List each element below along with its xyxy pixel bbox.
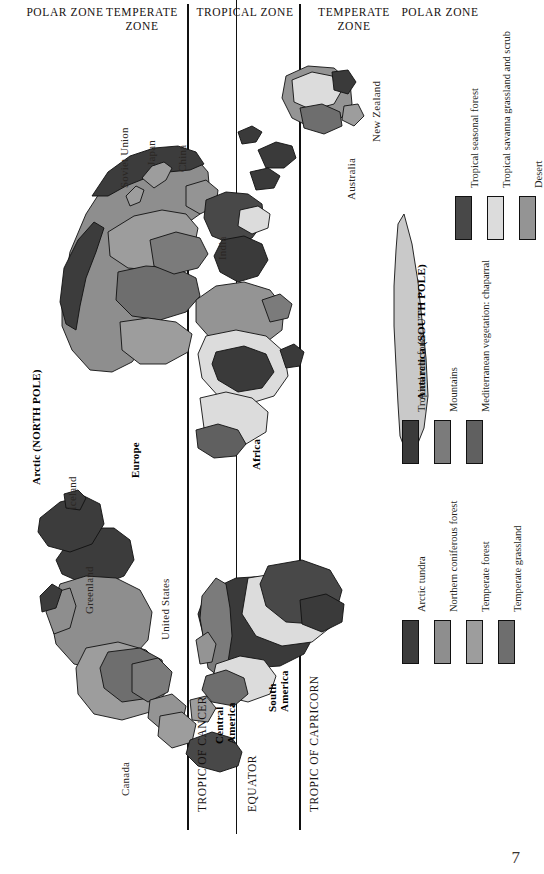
- place-label-iceland: Iceland: [66, 476, 78, 510]
- legend-label: Tropical seasonal forest: [469, 88, 480, 188]
- place-label-central-america: CentralAmerica: [213, 702, 237, 744]
- legend-swatch: [434, 620, 451, 664]
- legend-swatch: [434, 420, 451, 464]
- latitude-label-tropic-of-cancer: TROPIC OF CANCER: [196, 696, 208, 812]
- legend-swatch: [402, 420, 419, 464]
- landmass-north-america: [38, 490, 196, 748]
- place-label-china: China: [176, 145, 188, 172]
- legend-label: Temperate grassland: [512, 526, 523, 612]
- latitude-label-equator: EQUATOR: [246, 755, 258, 812]
- landmass-south-america: [186, 560, 344, 772]
- place-label-africa: Africa: [250, 439, 262, 470]
- legend-swatch: [455, 196, 472, 240]
- legend-label: Temperate forest: [480, 541, 491, 612]
- legend-label: Northern coniferous forest: [448, 501, 459, 612]
- place-label-australia: Australia: [345, 158, 357, 200]
- legend-label: Desert: [533, 161, 544, 188]
- place-label-new-zealand: New Zealand: [370, 81, 382, 142]
- latitude-label-tropic-of-capricorn: TROPIC OF CAPRICORN: [308, 675, 320, 812]
- landmass-africa: [196, 282, 304, 458]
- legend-swatch: [487, 196, 504, 240]
- place-label-greenland: Greenland: [83, 566, 95, 614]
- place-label-japan: Japan: [145, 140, 157, 166]
- legend-label: Arctic tundra: [416, 556, 427, 612]
- landmass-australia: [282, 66, 364, 134]
- pole-label-arctic: Arctic (NORTH POLE): [30, 369, 42, 485]
- legend-swatch: [466, 420, 483, 464]
- place-label-canada: Canada: [119, 762, 131, 796]
- place-label-south-america: SouthAmerica: [266, 670, 290, 712]
- legend-label: Tropical rain forest: [416, 331, 427, 412]
- place-label-europe: Europe: [129, 442, 141, 478]
- legend-swatch: [519, 196, 536, 240]
- legend-swatch: [466, 620, 483, 664]
- place-label-united-states: United States: [159, 578, 171, 640]
- place-label-india: India: [216, 236, 228, 260]
- legend-swatch: [498, 620, 515, 664]
- legend-label: Mediterranean vegetation: chaparral: [480, 260, 491, 412]
- legend-swatch: [402, 620, 419, 664]
- page-number: 7: [512, 848, 521, 868]
- legend-label: Mountains: [448, 367, 459, 412]
- place-label-soviet-union: Soviet Union: [118, 127, 130, 188]
- legend-label: Tropical savanna grassland and scrub: [501, 31, 512, 188]
